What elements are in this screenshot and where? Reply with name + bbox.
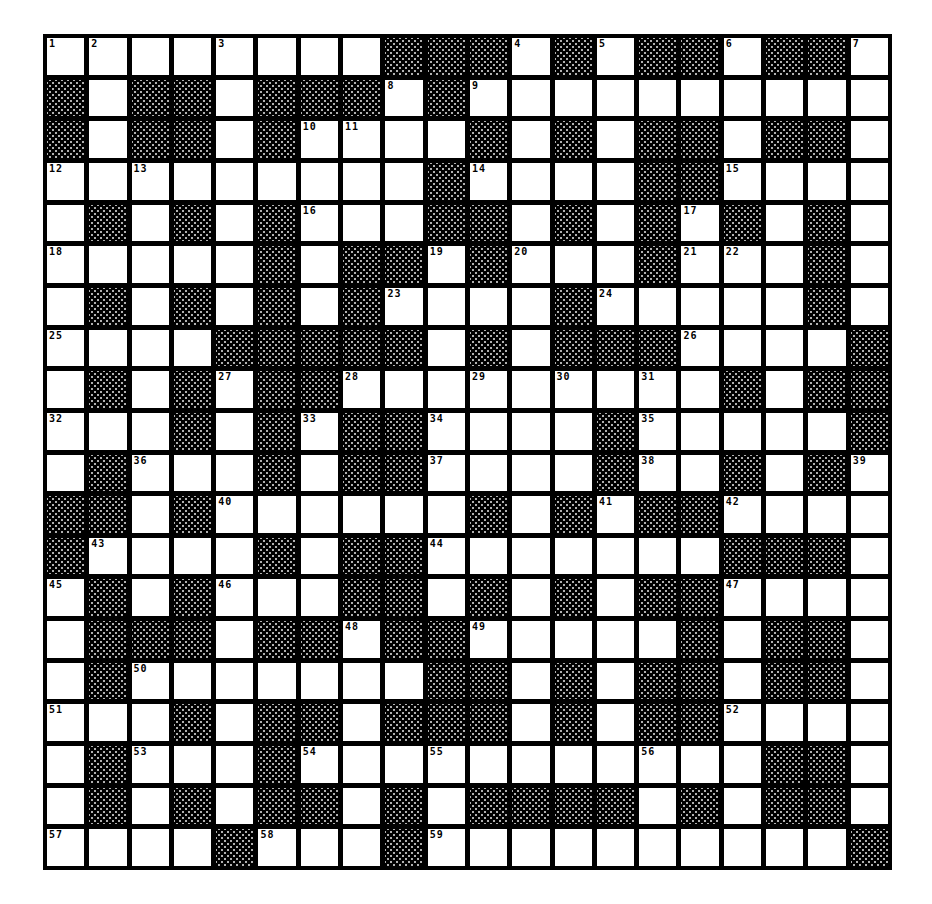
answer-cell[interactable]: 10: [301, 121, 338, 158]
answer-cell[interactable]: [597, 121, 634, 158]
answer-cell[interactable]: [428, 288, 465, 325]
answer-cell[interactable]: [597, 246, 634, 283]
answer-cell[interactable]: [216, 413, 253, 450]
answer-cell[interactable]: [766, 288, 803, 325]
answer-cell[interactable]: [258, 579, 295, 616]
answer-cell[interactable]: [132, 496, 169, 533]
answer-cell[interactable]: [555, 746, 592, 783]
answer-cell[interactable]: 46: [216, 579, 253, 616]
answer-cell[interactable]: [597, 663, 634, 700]
answer-cell[interactable]: [555, 829, 592, 866]
answer-cell[interactable]: [851, 788, 888, 825]
answer-cell[interactable]: [216, 621, 253, 658]
answer-cell[interactable]: [301, 455, 338, 492]
answer-cell[interactable]: [808, 80, 845, 117]
answer-cell[interactable]: [428, 121, 465, 158]
answer-cell[interactable]: [555, 163, 592, 200]
answer-cell[interactable]: 25: [47, 330, 84, 367]
answer-cell[interactable]: [132, 704, 169, 741]
answer-cell[interactable]: [512, 413, 549, 450]
answer-cell[interactable]: [174, 330, 211, 367]
answer-cell[interactable]: [766, 246, 803, 283]
answer-cell[interactable]: [512, 538, 549, 575]
answer-cell[interactable]: [724, 663, 761, 700]
answer-cell[interactable]: [385, 205, 422, 242]
answer-cell[interactable]: [301, 829, 338, 866]
answer-cell[interactable]: [470, 288, 507, 325]
answer-cell[interactable]: [301, 246, 338, 283]
answer-cell[interactable]: 38: [639, 455, 676, 492]
answer-cell[interactable]: [766, 163, 803, 200]
answer-cell[interactable]: 30: [555, 371, 592, 408]
answer-cell[interactable]: [174, 538, 211, 575]
answer-cell[interactable]: [766, 413, 803, 450]
answer-cell[interactable]: [301, 538, 338, 575]
answer-cell[interactable]: [512, 621, 549, 658]
answer-cell[interactable]: [851, 205, 888, 242]
answer-cell[interactable]: [216, 788, 253, 825]
answer-cell[interactable]: 39: [851, 455, 888, 492]
answer-cell[interactable]: [385, 121, 422, 158]
answer-cell[interactable]: [216, 163, 253, 200]
answer-cell[interactable]: [512, 371, 549, 408]
answer-cell[interactable]: [258, 663, 295, 700]
answer-cell[interactable]: [808, 579, 845, 616]
answer-cell[interactable]: [851, 621, 888, 658]
answer-cell[interactable]: [808, 829, 845, 866]
answer-cell[interactable]: [851, 163, 888, 200]
answer-cell[interactable]: [724, 621, 761, 658]
answer-cell[interactable]: [512, 829, 549, 866]
answer-cell[interactable]: 8: [385, 80, 422, 117]
answer-cell[interactable]: [47, 288, 84, 325]
answer-cell[interactable]: [89, 330, 126, 367]
answer-cell[interactable]: 20: [512, 246, 549, 283]
answer-cell[interactable]: 43: [89, 538, 126, 575]
answer-cell[interactable]: 14: [470, 163, 507, 200]
answer-cell[interactable]: 55: [428, 746, 465, 783]
answer-cell[interactable]: [681, 538, 718, 575]
answer-cell[interactable]: [512, 330, 549, 367]
answer-cell[interactable]: 37: [428, 455, 465, 492]
answer-cell[interactable]: [47, 371, 84, 408]
answer-cell[interactable]: [639, 288, 676, 325]
answer-cell[interactable]: [766, 205, 803, 242]
answer-cell[interactable]: 34: [428, 413, 465, 450]
answer-cell[interactable]: [555, 538, 592, 575]
answer-cell[interactable]: [851, 746, 888, 783]
answer-cell[interactable]: 17: [681, 205, 718, 242]
answer-cell[interactable]: [89, 413, 126, 450]
answer-cell[interactable]: [512, 455, 549, 492]
answer-cell[interactable]: 24: [597, 288, 634, 325]
answer-cell[interactable]: [343, 829, 380, 866]
answer-cell[interactable]: 47: [724, 579, 761, 616]
answer-cell[interactable]: [597, 746, 634, 783]
answer-cell[interactable]: [597, 163, 634, 200]
answer-cell[interactable]: 18: [47, 246, 84, 283]
answer-cell[interactable]: [597, 829, 634, 866]
answer-cell[interactable]: 53: [132, 746, 169, 783]
answer-cell[interactable]: [428, 371, 465, 408]
answer-cell[interactable]: [724, 788, 761, 825]
answer-cell[interactable]: [555, 455, 592, 492]
answer-cell[interactable]: 22: [724, 246, 761, 283]
answer-cell[interactable]: [385, 371, 422, 408]
answer-cell[interactable]: [808, 413, 845, 450]
answer-cell[interactable]: [216, 704, 253, 741]
answer-cell[interactable]: [216, 538, 253, 575]
answer-cell[interactable]: [47, 205, 84, 242]
answer-cell[interactable]: 52: [724, 704, 761, 741]
answer-cell[interactable]: 31: [639, 371, 676, 408]
answer-cell[interactable]: [343, 163, 380, 200]
answer-cell[interactable]: [385, 746, 422, 783]
answer-cell[interactable]: [470, 829, 507, 866]
answer-cell[interactable]: [216, 746, 253, 783]
answer-cell[interactable]: [766, 579, 803, 616]
answer-cell[interactable]: [639, 538, 676, 575]
answer-cell[interactable]: 28: [343, 371, 380, 408]
answer-cell[interactable]: [301, 163, 338, 200]
answer-cell[interactable]: [766, 80, 803, 117]
answer-cell[interactable]: [766, 496, 803, 533]
answer-cell[interactable]: [808, 496, 845, 533]
answer-cell[interactable]: 19: [428, 246, 465, 283]
answer-cell[interactable]: [724, 80, 761, 117]
